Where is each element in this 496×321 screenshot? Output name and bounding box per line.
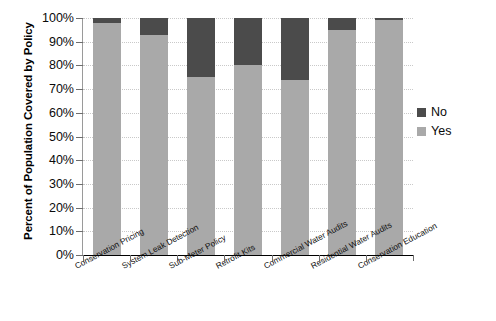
chart-legend: NoYes [417, 103, 491, 141]
bar-stack[interactable] [375, 18, 403, 255]
y-axis-tick-labels: 100%90%80%70%60%50%40%30%20%10%0% [0, 0, 74, 321]
y-axis-tick-label: 80% [4, 59, 74, 72]
bar-segment-yes[interactable] [93, 23, 121, 255]
y-axis-tick-label: 70% [4, 83, 74, 96]
bar-segment-no[interactable] [187, 18, 215, 77]
y-axis-tick-label: 90% [4, 36, 74, 49]
bar-segment-no[interactable] [375, 18, 403, 20]
y-axis-tick-label: 100% [4, 12, 74, 25]
bar-stack[interactable] [234, 18, 262, 255]
y-axis-tick-mark [76, 137, 83, 138]
legend-item[interactable]: Yes [417, 122, 491, 141]
y-axis-tick-label: 40% [4, 154, 74, 167]
y-axis-tick-mark [76, 184, 83, 185]
bar-stack[interactable] [281, 18, 309, 255]
y-axis-tick-label: 0% [4, 249, 74, 262]
bar-segment-yes[interactable] [234, 65, 262, 255]
y-axis-tick-mark [76, 113, 83, 114]
legend-label: Yes [431, 125, 451, 138]
y-axis-tick-mark [76, 231, 83, 232]
y-axis-tick-mark [76, 208, 83, 209]
bar-stack[interactable] [93, 18, 121, 255]
bar-segment-no[interactable] [281, 18, 309, 80]
y-axis-tick-mark [76, 160, 83, 161]
stacked-bar-chart: Percent of Population Covered by Policy … [0, 0, 496, 321]
y-axis-tick-label: 30% [4, 178, 74, 191]
y-axis-tick-mark [76, 65, 83, 66]
plot-area [83, 18, 413, 255]
legend-item[interactable]: No [417, 103, 491, 122]
legend-swatch-icon [417, 108, 426, 117]
legend-label: No [431, 106, 447, 119]
bar-segment-yes[interactable] [281, 80, 309, 255]
y-axis-tick-label: 50% [4, 131, 74, 144]
y-axis-tick-mark [76, 42, 83, 43]
bar-segment-yes[interactable] [140, 35, 168, 255]
bar-segment-no[interactable] [93, 18, 121, 23]
bar-segment-no[interactable] [140, 18, 168, 35]
y-axis-tick-label: 60% [4, 107, 74, 120]
bar-segment-yes[interactable] [375, 20, 403, 255]
bar-stack[interactable] [187, 18, 215, 255]
legend-swatch-icon [417, 127, 426, 136]
y-axis-tick-label: 20% [4, 202, 74, 215]
y-axis-tick-label: 10% [4, 225, 74, 238]
bar-stack[interactable] [140, 18, 168, 255]
y-axis-tick-mark [76, 18, 83, 19]
y-axis-tick-mark [76, 89, 83, 90]
bar-segment-no[interactable] [328, 18, 356, 30]
x-axis-tick-mark [413, 255, 414, 261]
bar-segment-no[interactable] [234, 18, 262, 65]
